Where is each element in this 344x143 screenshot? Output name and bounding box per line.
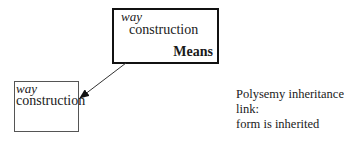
caption-line-2: form is inherited xyxy=(236,117,344,132)
link-caption: Polysemy inheritance link: form is inher… xyxy=(236,87,344,132)
caption-line-1: Polysemy inheritance link: xyxy=(236,87,344,117)
